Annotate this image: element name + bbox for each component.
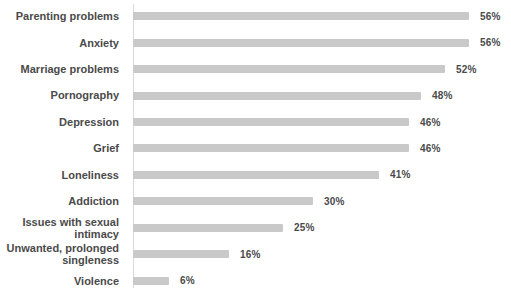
bar-track: 6%	[133, 268, 511, 294]
bar-row: Loneliness41%	[0, 162, 511, 188]
bar-row: Issues with sexual intimacy25%	[0, 215, 511, 241]
value-label: 30%	[324, 196, 345, 207]
bar-row: Violence6%	[0, 268, 511, 294]
category-label: Grief	[0, 142, 133, 154]
category-label: Violence	[0, 275, 133, 287]
category-label: Loneliness	[0, 169, 133, 181]
bar	[133, 197, 313, 205]
bar-track: 41%	[133, 162, 511, 188]
value-label: 48%	[432, 90, 453, 101]
bar	[133, 224, 283, 232]
bar-chart: Parenting problems56%Anxiety56%Marriage …	[0, 0, 511, 297]
bar-track: 46%	[133, 135, 511, 161]
bar-track: 52%	[133, 56, 511, 82]
bar	[133, 65, 445, 73]
category-label: Unwanted, prolonged singleness	[0, 242, 133, 267]
bar-row: Pornography48%	[0, 82, 511, 108]
bar	[133, 171, 379, 179]
bar-track: 30%	[133, 188, 511, 214]
bar-track: 48%	[133, 82, 511, 108]
bar	[133, 92, 421, 100]
value-label: 56%	[480, 37, 501, 48]
category-label: Addiction	[0, 195, 133, 207]
bar-row: Grief46%	[0, 135, 511, 161]
value-label: 6%	[180, 275, 195, 286]
value-label: 16%	[240, 249, 261, 260]
value-label: 56%	[480, 11, 501, 22]
value-label: 41%	[390, 169, 411, 180]
bar	[133, 118, 409, 126]
bar-track: 16%	[133, 241, 511, 267]
category-label: Depression	[0, 116, 133, 128]
category-label: Parenting problems	[0, 10, 133, 22]
value-label: 52%	[456, 64, 477, 75]
bar-row: Parenting problems56%	[0, 3, 511, 29]
bar-row: Marriage problems52%	[0, 56, 511, 82]
bar-row: Anxiety56%	[0, 29, 511, 55]
category-label: Marriage problems	[0, 63, 133, 75]
value-label: 25%	[294, 222, 315, 233]
bar	[133, 144, 409, 152]
category-label: Issues with sexual intimacy	[0, 216, 133, 241]
chart-rows: Parenting problems56%Anxiety56%Marriage …	[0, 0, 511, 297]
bar-row: Unwanted, prolonged singleness16%	[0, 241, 511, 267]
bar	[133, 250, 229, 258]
bar	[133, 39, 469, 47]
bar	[133, 277, 169, 285]
bar	[133, 12, 469, 20]
bar-track: 56%	[133, 29, 511, 55]
bar-row: Depression46%	[0, 109, 511, 135]
category-label: Pornography	[0, 89, 133, 101]
bar-row: Addiction30%	[0, 188, 511, 214]
value-label: 46%	[420, 117, 441, 128]
bar-track: 25%	[133, 215, 511, 241]
bar-track: 56%	[133, 3, 511, 29]
value-label: 46%	[420, 143, 441, 154]
category-label: Anxiety	[0, 37, 133, 49]
bar-track: 46%	[133, 109, 511, 135]
